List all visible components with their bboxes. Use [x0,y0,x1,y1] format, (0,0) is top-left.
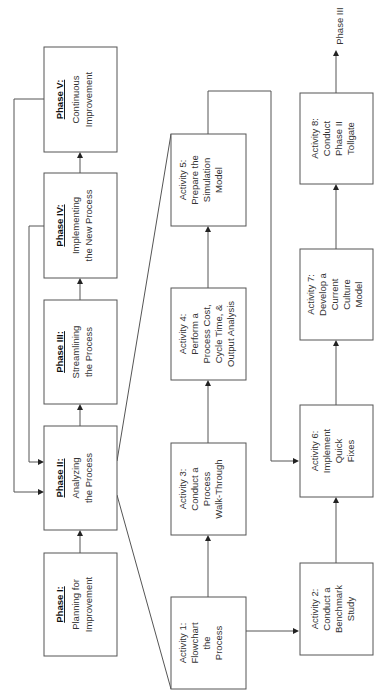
arrowhead-icon [205,535,211,541]
phase-label-line: Improvement [83,71,94,127]
activity-label-line: Cycle Time, & [213,304,224,363]
phase-label-line: the Process [83,453,94,503]
arrowhead-icon [77,278,83,284]
phase-label-line: Planning for [70,579,81,630]
activity-label-line: Activity 6: [309,431,320,472]
activity-label-line: Process [213,626,224,661]
activity-label-line: Activity 4: [177,314,188,355]
activity-label-line: Prepare the [189,155,200,205]
phase-label-line: Implementing [70,197,81,254]
activity-label-line: Study [345,597,356,622]
activity-label-line: Implement [321,428,332,473]
activity-label-line: Activity 8: [309,118,320,159]
activity-4-box: Activity 4: Perform a Process Cost, Cycl… [171,288,246,380]
phase-label-line: the New Process [83,189,94,261]
activity-label-line: Activity 2: [309,589,320,630]
phase-boxes: Phase I: Planning for Improvement Phase … [44,47,117,656]
activity-label-line: Model [213,167,224,193]
activity-label-line: Culture [341,279,352,310]
arrowhead-icon [333,184,339,190]
activity-label-line: Walk-Through [213,459,224,518]
activity-label-line: Fixes [345,439,356,462]
phase-4-box: Phase IV: Implementing the New Process [44,173,117,278]
activity-label-line: Develop a [317,272,328,315]
phase-3-box: Phase III: Streamlining the Process [44,300,117,404]
arrowhead-icon [293,628,299,634]
activity-label-line: Conduct a [189,467,200,511]
arrowhead-icon [293,458,299,464]
activity-label-line: Activity 7: [305,274,316,315]
activity-label-line: Activity 1: [177,623,188,664]
activity-label-line: Activity 5: [177,160,188,201]
phase-label-line: Streamlining [70,326,81,379]
phase-title: Phase II: [54,458,65,497]
activity-label-line: Process [201,472,212,507]
phase-title: Phase I: [54,586,65,622]
phase-title: Phase V: [54,80,65,120]
activity-label-line: Flowchart [189,622,200,664]
phase-1-box: Phase I: Planning for Improvement [44,553,117,656]
arrowhead-icon [77,152,83,158]
arrowhead-icon [38,459,44,465]
activity-label-line: Perform a [189,312,200,354]
activity-5-box: Activity 5: Prepare the Simulation Model [171,134,246,226]
arrowhead-icon [333,497,339,503]
activity-label-line: Simulation [201,158,212,202]
activity-6-box: Activity 6: Implement Quick Fixes [300,405,373,497]
activity-3-box: Activity 3: Conduct a Process Walk-Throu… [171,443,246,535]
activity-label-line: the [201,636,212,649]
activity-label-line: Tollgate [345,122,356,155]
activity-1-box: Activity 1: Flowchart the Process [171,597,246,689]
phase-label-line: Continuous [70,75,81,123]
activity-label-line: Quick [333,439,344,464]
arrowhead-icon [333,340,339,346]
activity-label-line: Current [329,278,340,310]
activity-label-line: Model [353,282,364,308]
feedback-phase4-phase2 [29,226,44,462]
activity-boxes: Activity 1: Flowchart the Process Activi… [171,93,373,689]
phase-5-box: Phase V: Continuous Improvement [44,47,117,152]
arrowhead-icon [333,50,339,56]
activity-2-box: Activity 2: Conduct a Benchmark Study [300,563,373,655]
arrowhead-icon [205,380,211,386]
activity-label-line: Process Cost, [201,304,212,363]
expansion-line-top [117,134,171,461]
phase-title: Phase IV: [54,204,65,246]
activity-label-line: Output Analysis [225,301,236,367]
arrowhead-icon [205,226,211,232]
activity-label-line: Conduct a [321,587,332,631]
phase-title: Phase III: [54,331,65,373]
arrowhead-icon [38,489,44,495]
process-diagram: Phase I: Planning for Improvement Phase … [0,0,388,699]
activity-label-line: Phase II [333,121,344,156]
activity-8-box: Activity 8: Conduct Phase II Tollgate [300,93,373,184]
arrowhead-icon [77,530,83,536]
expansion-line-bottom [117,495,171,689]
phase-label-line: Analyzing [70,457,81,498]
activity-label-line: Conduct [321,120,332,156]
activity-label-line: Benchmark [333,585,344,633]
activity-7-box: Activity 7: Develop a Current Culture Mo… [300,249,373,340]
exit-label-phase-3: Phase III [334,7,345,45]
phase-label-line: Improvement [83,576,94,632]
activity-label-line: Activity 3: [177,469,188,510]
arrowhead-icon [77,404,83,410]
phase-label-line: the Process [83,327,94,377]
phase-2-box: Phase II: Analyzing the Process [44,426,117,530]
